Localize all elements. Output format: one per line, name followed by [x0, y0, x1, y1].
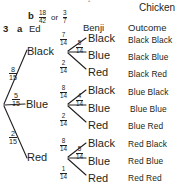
node-ed-red: Red [27, 152, 47, 163]
prob-benji-blue-blue: 4 14 [76, 93, 83, 107]
node-benji-black-black: Black [88, 33, 115, 44]
prob-ed-black: 8 15 [9, 66, 17, 82]
prob-benji-red-blue: 5 14 [76, 146, 83, 160]
worksheet-page: • Chicken b 18 42 or 3 7 3 a Ed Benji Ou… [0, 0, 182, 187]
node-benji-red-red: Red [88, 173, 108, 184]
outcome-row: Blue Blue [130, 105, 167, 113]
node-benji-blue-blue: Blue [88, 103, 110, 114]
fraction-numerator: 2 [9, 130, 17, 137]
fraction-numerator: 1 [60, 166, 67, 173]
outcome-row: Red Black [128, 140, 167, 148]
fraction-denominator: 15 [12, 99, 20, 107]
node-ed-black: Black [27, 46, 54, 57]
outcome-row: Black Black [128, 36, 172, 44]
node-benji-blue-black: Black [88, 85, 115, 96]
node-benji-red-blue: Blue [88, 156, 110, 167]
outcome-row: Black Red [128, 70, 167, 78]
fraction-numerator: 5 [76, 40, 83, 47]
fraction-numerator: 5 [76, 146, 83, 153]
fraction-numerator: 8 [60, 138, 67, 145]
outcome-row: Red Red [128, 174, 162, 182]
fraction-denominator: 14 [60, 120, 67, 128]
fraction-denominator: 14 [60, 145, 67, 153]
prob-benji-blue-black: 8 14 [60, 85, 67, 99]
fraction-numerator: 8 [60, 85, 67, 92]
fraction-denominator: 14 [76, 47, 83, 55]
prob-benji-black-red: 2 14 [60, 60, 67, 74]
fraction-numerator: 2 [60, 60, 67, 67]
branch-black-red [68, 53, 86, 69]
branch-red-red [68, 159, 86, 175]
node-ed-blue: Blue [26, 99, 48, 110]
branch-blue-red [68, 106, 86, 122]
node-benji-red-black: Black [88, 138, 115, 149]
prob-benji-red-red: 1 14 [60, 166, 67, 180]
fraction-denominator: 15 [9, 137, 17, 145]
node-benji-black-blue: Blue [88, 50, 110, 61]
prob-ed-red: 2 15 [9, 130, 17, 146]
node-benji-black-red: Red [88, 67, 108, 78]
fraction-denominator: 14 [60, 92, 67, 100]
fraction-numerator: 4 [76, 93, 83, 100]
fraction-denominator: 14 [76, 153, 83, 161]
fraction-denominator: 14 [60, 67, 67, 75]
fraction-denominator: 14 [60, 39, 67, 47]
fraction-numerator: 5 [12, 92, 20, 99]
prob-ed-blue: 5 15 [12, 92, 20, 108]
prob-benji-black-blue: 5 14 [76, 40, 83, 54]
prob-benji-red-black: 8 14 [60, 138, 67, 152]
outcome-row: Blue Black [128, 88, 169, 96]
fraction-denominator: 15 [9, 73, 17, 81]
outcome-row: Red Blue [128, 157, 163, 165]
fraction-numerator: 8 [9, 66, 17, 73]
fraction-denominator: 14 [60, 173, 67, 181]
outcome-row: Blue Red [128, 122, 163, 130]
fraction-numerator: 7 [60, 32, 67, 39]
prob-benji-black-black: 7 14 [60, 32, 67, 46]
fraction-denominator: 14 [76, 100, 83, 108]
prob-benji-blue-red: 2 14 [60, 113, 67, 127]
node-benji-blue-red: Red [88, 120, 108, 131]
fraction-numerator: 2 [60, 113, 67, 120]
outcome-row: Black Blue [128, 53, 169, 61]
